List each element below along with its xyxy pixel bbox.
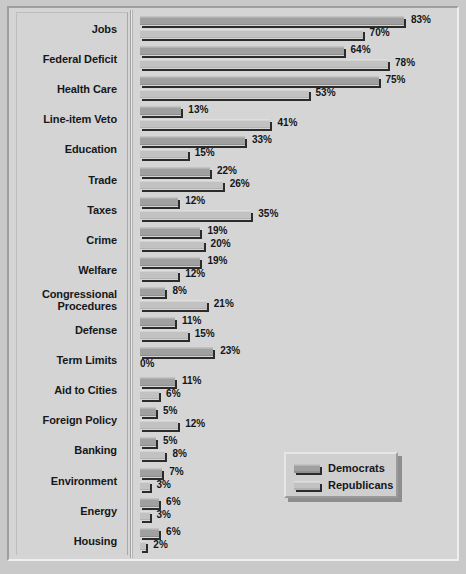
bar-value-label: 13% — [188, 104, 208, 115]
bar-republicans — [140, 420, 178, 429]
bar-value-label: 15% — [195, 147, 215, 158]
bar-value-label: 8% — [172, 448, 186, 459]
bar-republicans — [140, 390, 159, 399]
bar-value-label: 20% — [211, 238, 231, 249]
legend-box: DemocratsRepublicans — [284, 452, 398, 498]
bar-row: 12% — [140, 270, 450, 281]
category-label: Term Limits — [17, 354, 117, 366]
category-label: Environment — [17, 475, 117, 487]
bar-value-label: 15% — [195, 328, 215, 339]
bar-row: 6% — [140, 390, 450, 401]
category-label: Federal Deficit — [17, 53, 117, 65]
category-label: Banking — [17, 444, 117, 456]
bar-row: 15% — [140, 149, 450, 160]
bar-value-label: 6% — [166, 496, 180, 507]
category-label: Aid to Cities — [17, 384, 117, 396]
bar-row: 78% — [140, 59, 450, 70]
bar-value-label: 5% — [163, 435, 177, 446]
bar-row: 64% — [140, 46, 450, 57]
bar-democrats — [140, 347, 213, 356]
bar-value-label: 78% — [395, 57, 415, 68]
bar-row: 35% — [140, 210, 450, 221]
bar-value-label: 41% — [277, 117, 297, 128]
panel-divider — [130, 10, 133, 558]
bar-value-label: 35% — [258, 208, 278, 219]
bar-republicans — [140, 59, 388, 68]
bar-row: 83% — [140, 16, 450, 27]
bar-democrats — [140, 227, 200, 236]
bar-democrats — [140, 287, 165, 296]
category-label: Foreign Policy — [17, 414, 117, 426]
bar-row: 70% — [140, 29, 450, 40]
bar-democrats — [140, 106, 181, 115]
bar-republicans — [140, 511, 150, 520]
bar-row: 5% — [140, 437, 450, 448]
bar-republicans — [140, 89, 309, 98]
bar-value-label: 0% — [140, 358, 154, 369]
bar-republicans — [140, 270, 178, 279]
bar-value-label: 12% — [185, 418, 205, 429]
category-label: Jobs — [17, 23, 117, 35]
bar-republicans — [140, 541, 146, 550]
bar-row: 8% — [140, 287, 450, 298]
bar-row: 13% — [140, 106, 450, 117]
bar-value-label: 70% — [370, 27, 390, 38]
bar-value-label: 6% — [166, 526, 180, 537]
bar-democrats — [140, 468, 162, 477]
bar-republicans — [140, 300, 207, 309]
bar-value-label: 75% — [386, 74, 406, 85]
bar-value-label: 8% — [172, 285, 186, 296]
bar-value-label: 53% — [316, 87, 336, 98]
legend-swatch-rep — [294, 481, 320, 490]
bar-row: 0% — [140, 360, 450, 371]
bar-republicans — [140, 450, 165, 459]
bar-row: 6% — [140, 528, 450, 539]
bar-row: 12% — [140, 420, 450, 431]
category-label: CongressionalProcedures — [17, 288, 117, 312]
bar-democrats — [140, 76, 379, 85]
bar-republicans — [140, 210, 251, 219]
bar-row: 21% — [140, 300, 450, 311]
bar-democrats — [140, 136, 245, 145]
bar-value-label: 22% — [217, 165, 237, 176]
bar-republicans — [140, 180, 223, 189]
bar-democrats — [140, 197, 178, 206]
bar-republicans — [140, 119, 270, 128]
bar-row: 75% — [140, 76, 450, 87]
bar-value-label: 12% — [185, 195, 205, 206]
bar-value-label: 12% — [185, 268, 205, 279]
bar-democrats — [140, 437, 156, 446]
bar-value-label: 23% — [220, 345, 240, 356]
bar-democrats — [140, 377, 175, 386]
bar-row: 3% — [140, 511, 450, 522]
bar-value-label: 19% — [207, 255, 227, 266]
bar-republicans — [140, 149, 188, 158]
bar-row: 22% — [140, 167, 450, 178]
bar-row: 5% — [140, 407, 450, 418]
bar-value-label: 64% — [351, 44, 371, 55]
category-label: Taxes — [17, 204, 117, 216]
bar-value-label: 3% — [157, 509, 171, 520]
bar-value-label: 3% — [157, 479, 171, 490]
bar-row: 53% — [140, 89, 450, 100]
bar-row: 2% — [140, 541, 450, 552]
bar-republicans — [140, 481, 150, 490]
bar-democrats — [140, 257, 200, 266]
category-label: Welfare — [17, 264, 117, 276]
bar-row: 26% — [140, 180, 450, 191]
bar-value-label: 5% — [163, 405, 177, 416]
category-label-panel: JobsFederal DeficitHealth CareLine-item … — [16, 12, 128, 555]
category-label: Trade — [17, 174, 117, 186]
category-label: Defense — [17, 324, 117, 336]
category-label: Health Care — [17, 83, 117, 95]
bar-democrats — [140, 528, 159, 537]
category-label: Education — [17, 143, 117, 155]
bar-value-label: 26% — [230, 178, 250, 189]
bar-row: 20% — [140, 240, 450, 251]
chart-figure: JobsFederal DeficitHealth CareLine-item … — [0, 0, 466, 574]
bar-republicans — [140, 330, 188, 339]
bar-democrats — [140, 317, 175, 326]
bar-value-label: 7% — [169, 466, 183, 477]
bar-value-label: 11% — [182, 375, 201, 386]
bar-row: 15% — [140, 330, 450, 341]
